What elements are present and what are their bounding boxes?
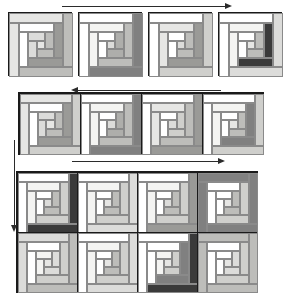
block-t4-ring3-log-right (255, 32, 264, 49)
block-m1-ring3-log-bottom (46, 129, 63, 137)
block-b14-ring3-log-top (216, 191, 232, 199)
block-m1-ring3-log-left (38, 120, 46, 137)
block-m3-ring2-log-top (151, 103, 185, 112)
block-b14-ring3-log-bottom (224, 207, 240, 215)
block-t4-ring1-log-right (273, 13, 283, 67)
block-b12-ring2-log-bottom (96, 215, 129, 224)
block-b11-ring2-log-bottom (36, 215, 69, 224)
block-t1-ring1-log-left (9, 23, 19, 77)
bottom-direction-line (72, 161, 220, 162)
block-t2-ring3-log-right (115, 32, 124, 49)
block-m3-ring3-log-left (160, 120, 168, 137)
block-b14-ring1-log-right (249, 173, 258, 224)
block-m4-ring1-log-top (203, 94, 255, 103)
block-b14-center-square (224, 199, 232, 207)
block-m3-ring1-log-top (142, 94, 194, 103)
block-b14-ring1-log-top (198, 173, 249, 182)
block-m1 (19, 93, 80, 154)
block-t4-ring3-log-top (238, 32, 255, 41)
block-t1-ring1-log-top (9, 13, 63, 23)
block-b21-ring2-log-bottom (36, 275, 69, 284)
block-t3-ring2-log-right (194, 23, 203, 58)
block-b13-ring2-log-left (147, 191, 156, 224)
block-m4-ring3-log-right (238, 112, 246, 129)
block-t2-ring3-log-left (98, 41, 107, 58)
block-b24-center-square (224, 259, 232, 267)
block-b14-ring2-log-top (207, 182, 240, 191)
block-b23-ring3-log-top (156, 251, 172, 259)
block-m3-center-square (168, 120, 177, 129)
block-b11-ring2-log-top (27, 182, 60, 191)
block-t3-ring3-log-top (168, 32, 185, 41)
block-b11-ring2-log-right (60, 182, 69, 215)
block-t2-center-square (107, 41, 115, 49)
block-m3-ring2-log-right (185, 103, 194, 137)
bottom-direction-line-arrow-right-icon (218, 158, 225, 164)
block-b22-ring3-log-bottom (104, 267, 120, 275)
block-m3 (141, 93, 202, 154)
block-m1-ring2-log-right (63, 103, 72, 137)
block-b11-ring1-log-top (18, 173, 69, 182)
block-b11-ring3-log-bottom (44, 207, 60, 215)
block-m3-ring3-log-right (177, 112, 185, 129)
block-b22-ring3-log-right (112, 251, 120, 267)
block-b11-ring3-log-left (36, 199, 44, 215)
block-t3-ring3-log-right (185, 32, 194, 49)
block-m4-ring3-log-left (221, 120, 229, 137)
block-t1-ring1-log-bottom (19, 67, 73, 77)
block-b11-ring3-log-right (52, 191, 60, 207)
block-m2-ring3-log-left (99, 120, 107, 137)
block-m1-ring2-log-top (29, 103, 63, 112)
block-b24-ring1-log-bottom (207, 284, 258, 293)
block-t1-center-square (37, 41, 45, 49)
block-b13-ring2-log-bottom (156, 215, 189, 224)
block-b12 (77, 172, 137, 232)
block-t3-ring1-log-right (203, 13, 213, 67)
block-b11 (17, 172, 77, 232)
block-b24-ring1-log-left (198, 242, 207, 293)
block-b23-ring1-log-bottom (147, 284, 198, 293)
middle-direction-line-arrow-left-icon (71, 87, 78, 93)
block-b13-ring2-log-top (147, 182, 180, 191)
block-t3-ring3-log-bottom (177, 49, 194, 58)
block-b23-ring2-log-top (147, 242, 180, 251)
block-t1 (8, 12, 72, 76)
block-m4 (202, 93, 263, 154)
block-t2-ring1-log-bottom (89, 67, 143, 77)
block-b22-ring1-log-left (78, 242, 87, 293)
block-t4-ring2-log-top (229, 23, 264, 32)
block-b23-center-square (164, 259, 172, 267)
block-b12-ring3-log-right (112, 191, 120, 207)
block-b13-ring1-log-left (138, 182, 147, 233)
block-t2 (78, 12, 142, 76)
block-t4-ring1-log-top (219, 13, 273, 23)
block-m1-ring2-log-bottom (38, 137, 72, 146)
block-t3-center-square (177, 41, 185, 49)
block-b21 (17, 232, 77, 292)
block-t4-ring2-log-left (229, 32, 238, 67)
block-b22 (77, 232, 137, 292)
block-t4-ring1-log-left (219, 23, 229, 77)
block-b21-ring1-log-top (18, 233, 69, 242)
block-t2-ring1-log-right (133, 13, 143, 67)
block-m4-ring1-log-left (203, 103, 212, 155)
block-b24-ring1-log-right (249, 233, 258, 284)
block-b23 (137, 232, 197, 292)
top-direction-line-arrow-right-icon (225, 3, 232, 9)
block-b12-ring2-log-top (87, 182, 120, 191)
block-b21-ring3-log-right (52, 251, 60, 267)
block-b21-ring2-log-left (27, 251, 36, 284)
block-b11-center-square (44, 199, 52, 207)
block-b13-ring3-log-top (156, 191, 172, 199)
block-m1-ring3-log-right (55, 112, 63, 129)
block-t4-ring3-log-left (238, 41, 247, 58)
block-b24-ring1-log-top (198, 233, 249, 242)
block-m2-ring2-log-left (90, 112, 99, 146)
block-b14-ring1-log-left (198, 182, 207, 233)
block-b12-center-square (104, 199, 112, 207)
block-b12-ring3-log-left (96, 199, 104, 215)
block-m3-ring2-log-left (151, 112, 160, 146)
middle-left-vertical-line (14, 140, 15, 170)
block-b21-center-square (44, 259, 52, 267)
block-b12-ring1-log-top (78, 173, 129, 182)
